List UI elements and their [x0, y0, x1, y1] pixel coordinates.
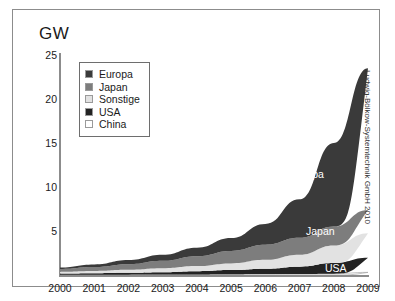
y-axis-tick-25: 25 [17, 49, 57, 61]
y-axis-tick-5: 5 [17, 225, 57, 237]
legend-swatch-icon [85, 108, 93, 116]
legend-item-china: China [85, 118, 140, 131]
legend-swatch-icon [85, 95, 93, 103]
y-axis-tick-20: 20 [17, 93, 57, 105]
legend-item-europa: Europa [85, 68, 140, 81]
legend-item-label: Japan [99, 81, 128, 94]
chart-frame: GW 252015105 Europa Japan USA EuropaJapa… [12, 9, 380, 287]
legend-swatch-icon [85, 120, 93, 128]
legend-swatch-icon [85, 70, 93, 78]
chart-legend: EuropaJapanSonstigeUSAChina [79, 62, 150, 137]
y-axis-tick-10: 10 [17, 181, 57, 193]
y-axis-tick-15: 15 [17, 137, 57, 149]
legend-item-label: Europa [99, 68, 133, 81]
x-axis-line [59, 275, 369, 277]
legend-item-sonstige: Sonstige [85, 93, 140, 106]
legend-item-label: China [99, 118, 126, 131]
legend-item-label: Sonstige [99, 93, 140, 106]
band-label-japan: Japan [306, 225, 335, 237]
source-credit-text: Ludwig-Bölkow-Systemtechnik GmbH 2010 [363, 70, 372, 224]
x-axis-tick-2009: 2009 [348, 282, 388, 294]
band-label-europa: Europa [290, 168, 324, 180]
legend-item-usa: USA [85, 106, 140, 119]
legend-swatch-icon [85, 83, 93, 91]
y-axis-tick-group: 252015105 [13, 10, 57, 301]
band-label-usa: USA [325, 262, 347, 274]
legend-item-label: USA [99, 106, 121, 119]
legend-item-japan: Japan [85, 81, 140, 94]
